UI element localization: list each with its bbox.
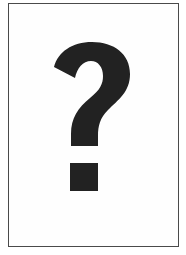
question-mark-hook: [54, 42, 130, 146]
question-mark-icon: [0, 0, 186, 255]
canvas: ?: [0, 0, 186, 255]
question-mark-dot: [70, 163, 98, 191]
